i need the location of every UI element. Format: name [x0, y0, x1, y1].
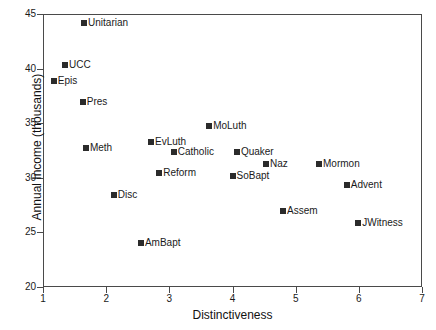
data-point-label: Quaker	[241, 146, 274, 157]
y-tick-label: 45	[6, 9, 36, 19]
x-axis-title: Distinctiveness	[43, 308, 422, 322]
data-point-label: Assem	[287, 205, 318, 216]
data-point-label: Pres	[87, 96, 108, 107]
y-axis-title: Annual Income (thousands)	[30, 27, 44, 267]
data-point-marker	[234, 149, 240, 155]
data-point-marker	[206, 123, 212, 129]
data-point-label: UCC	[69, 59, 91, 70]
scatter-plot-figure: 202530354045 1234567 UnitarianUCCEpisPre…	[0, 0, 436, 330]
data-point-marker	[111, 192, 117, 198]
data-point-marker	[81, 20, 87, 26]
x-tick-label: 3	[159, 294, 179, 304]
x-tick-label: 1	[33, 294, 53, 304]
data-point-marker	[83, 145, 89, 151]
data-point-label: Reform	[163, 167, 196, 178]
data-point-marker	[355, 220, 361, 226]
data-point-marker	[148, 139, 154, 145]
data-point-marker	[138, 240, 144, 246]
data-point-label: Catholic	[178, 146, 214, 157]
data-point-label: MoLuth	[213, 120, 246, 131]
data-point-marker	[230, 173, 236, 179]
x-tick-label: 6	[349, 294, 369, 304]
y-tick-label: 20	[6, 282, 36, 292]
data-point-label: Epis	[58, 75, 77, 86]
data-point-marker	[62, 62, 68, 68]
data-point-label: Advent	[351, 179, 382, 190]
data-point-label: SoBapt	[237, 170, 270, 181]
data-point-marker	[51, 78, 57, 84]
data-point-label: Mormon	[323, 158, 360, 169]
x-tick-label: 4	[223, 294, 243, 304]
data-point-marker	[156, 170, 162, 176]
data-point-label: Unitarian	[88, 17, 128, 28]
data-point-marker	[316, 161, 322, 167]
x-tick-label: 2	[96, 294, 116, 304]
x-tick-label: 5	[286, 294, 306, 304]
data-point-label: Disc	[118, 189, 137, 200]
data-point-label: JWitness	[362, 217, 403, 228]
data-point-marker	[344, 182, 350, 188]
data-point-marker	[80, 99, 86, 105]
data-point-marker	[280, 208, 286, 214]
data-point-label: Meth	[90, 142, 112, 153]
data-point-label: Naz	[270, 158, 288, 169]
y-tick-mark	[37, 14, 43, 15]
data-point-label: AmBapt	[145, 237, 181, 248]
data-point-marker	[171, 149, 177, 155]
data-point-marker	[263, 161, 269, 167]
x-tick-label: 7	[412, 294, 432, 304]
